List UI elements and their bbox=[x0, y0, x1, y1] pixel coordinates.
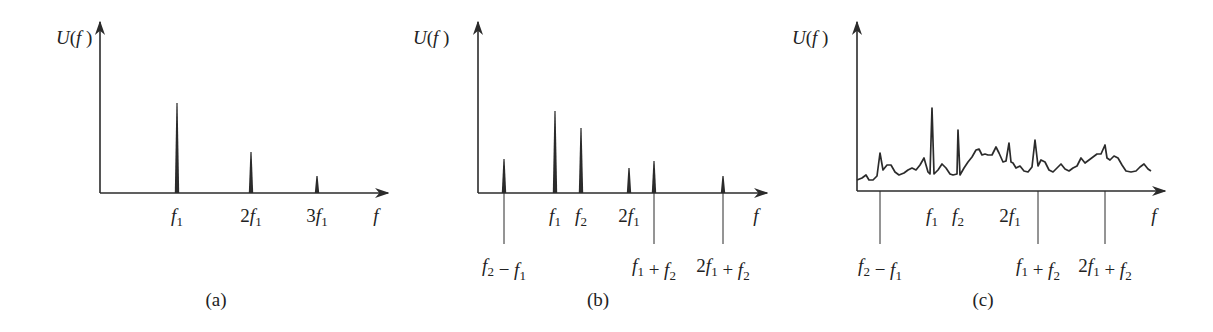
spectral-peak bbox=[315, 176, 319, 193]
panel-caption: (b) bbox=[587, 289, 609, 311]
peak-label: f1 bbox=[549, 205, 561, 229]
x-axis-label: f bbox=[1151, 205, 1159, 226]
panel-caption: (c) bbox=[972, 289, 993, 311]
frequency-label: f1 bbox=[926, 205, 938, 229]
x-axis-label: f bbox=[753, 205, 761, 226]
spectral-peak bbox=[175, 103, 179, 193]
panel-caption: (a) bbox=[205, 289, 226, 311]
peak-label: f1 bbox=[171, 205, 183, 229]
peak-label: 2f1 + f2 bbox=[696, 255, 749, 283]
spectrum-figure: U(f )ff12f13f1(a) U(f )ff2 − f1f1f22f1f1… bbox=[0, 0, 1213, 332]
panel-c-noisy-spectrum: U(f )ff2 − f1f1f22f1f1 + f22f1 + f2(c) bbox=[792, 22, 1165, 311]
x-axis-label: f bbox=[373, 205, 381, 226]
frequency-label: 2f1 bbox=[999, 205, 1020, 229]
spectral-peak bbox=[652, 161, 656, 193]
y-axis-label: U(f ) bbox=[413, 27, 449, 49]
frequency-label: f2 − f1 bbox=[858, 255, 902, 283]
panel-a-harmonic-spectrum: U(f )ff12f13f1(a) bbox=[56, 22, 388, 311]
spectral-peak bbox=[502, 159, 506, 193]
spectral-peak bbox=[553, 111, 557, 193]
peak-label: f2 bbox=[575, 205, 587, 229]
peak-label: f2 − f1 bbox=[482, 255, 526, 283]
peak-label: 2f1 bbox=[618, 205, 639, 229]
peak-label: 3f1 bbox=[306, 205, 327, 229]
peak-label: 2f1 bbox=[240, 205, 261, 229]
spectral-peak bbox=[627, 168, 631, 193]
y-axis-label: U(f ) bbox=[792, 27, 828, 49]
frequency-label: f1 + f2 bbox=[1016, 255, 1060, 283]
panel-b-intermodulation-spectrum: U(f )ff2 − f1f1f22f1f1 + f22f1 + f2(b) bbox=[413, 22, 767, 311]
spectral-peak bbox=[721, 176, 725, 193]
frequency-label: 2f1 + f2 bbox=[1078, 255, 1131, 283]
peak-label: f1 + f2 bbox=[632, 255, 676, 283]
spectrum-curve bbox=[857, 108, 1151, 180]
spectral-peak bbox=[579, 128, 583, 193]
spectral-peak bbox=[249, 152, 253, 193]
frequency-label: f2 bbox=[952, 205, 964, 229]
y-axis-label: U(f ) bbox=[56, 27, 92, 49]
